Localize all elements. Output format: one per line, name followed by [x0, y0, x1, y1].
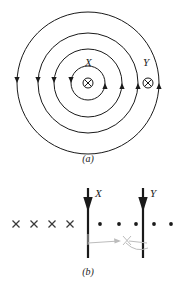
panel-a-label-y: Y — [143, 56, 151, 68]
dot-mark — [98, 222, 102, 226]
field-arrowhead-left-2 — [51, 77, 56, 83]
cross-mark — [49, 221, 56, 228]
current-arrow-x — [83, 188, 92, 258]
pencil-arrowhead — [114, 238, 121, 243]
pencil-annotation-group — [88, 234, 148, 250]
dot-mark — [152, 222, 156, 226]
panel-a-group: X Y (a) — [14, 12, 161, 165]
cross-mark — [13, 221, 20, 228]
panel-b-label-y: Y — [150, 187, 158, 199]
panel-b-group: X Y (b) — [13, 187, 173, 278]
panel-b-label-x: X — [94, 187, 103, 199]
pencil-arc — [126, 243, 148, 250]
field-arrowhead-right-4 — [156, 83, 161, 89]
dot-marks-group — [98, 222, 173, 226]
figure-root: X Y (a) — [0, 0, 177, 285]
field-arrowhead-right-1 — [102, 83, 107, 89]
cross-marks-group — [13, 221, 74, 228]
physics-figure-svg: X Y (a) — [0, 0, 177, 285]
current-arrow-y — [138, 188, 147, 258]
field-arrowhead-left-3 — [35, 77, 40, 83]
current-into-page-icon-center — [83, 78, 93, 88]
field-arrowhead-left-4 — [14, 77, 19, 83]
current-into-page-icon-y — [143, 78, 153, 88]
field-arrowhead-right-2 — [119, 83, 124, 89]
panel-a-caption: (a) — [82, 153, 94, 165]
dot-mark — [169, 222, 173, 226]
field-arrowhead-left-1 — [68, 77, 73, 83]
cross-mark — [67, 221, 74, 228]
field-arrowhead-right-3 — [135, 83, 140, 89]
panel-b-caption: (b) — [82, 266, 94, 278]
pencil-arc-head — [129, 241, 147, 243]
dot-mark — [117, 222, 121, 226]
panel-a-label-x: X — [84, 56, 93, 68]
dot-mark — [134, 222, 138, 226]
cross-mark — [31, 221, 38, 228]
